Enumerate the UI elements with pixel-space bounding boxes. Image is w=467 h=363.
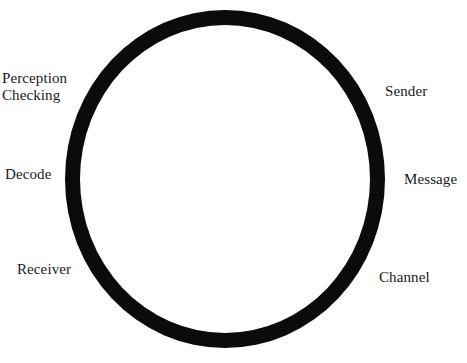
cycle-circle-outline [65,10,385,348]
communication-cycle-diagram: Perception Checking Decode Receiver Send… [0,0,467,363]
diagram-label-channel: Channel [379,269,430,286]
diagram-label-decode: Decode [5,166,51,183]
diagram-label-message: Message [404,171,457,188]
diagram-label-receiver: Receiver [17,261,71,278]
diagram-label-sender: Sender [385,83,427,100]
diagram-label-perception-checking: Perception Checking [2,70,67,104]
